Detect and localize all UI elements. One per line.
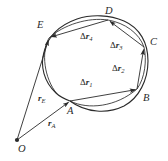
point-label-A: A xyxy=(67,106,73,117)
subscript-rA: A xyxy=(52,122,56,129)
figure-root: O A B C D E Δr1 Δr2 Δr3 Δr4 rE rA xyxy=(0,0,168,161)
subscript-rE: E xyxy=(42,97,46,104)
point-label-E: E xyxy=(37,20,43,31)
vector-dr1 xyxy=(70,90,136,101)
vector-label-dr3: Δr3 xyxy=(110,41,123,50)
point-label-D: D xyxy=(105,6,113,17)
chord-arcs xyxy=(45,19,146,106)
vector-label-dr1: Δr1 xyxy=(80,78,93,87)
origin-dot xyxy=(15,138,19,142)
point-label-C: C xyxy=(150,37,157,48)
point-label-B: B xyxy=(143,93,149,104)
vector-rA xyxy=(17,102,69,140)
point-label-O: O xyxy=(18,144,26,155)
subscript-dr4: 4 xyxy=(89,35,92,42)
vector-rE xyxy=(17,40,48,140)
vector-label-dr4: Δr4 xyxy=(80,32,93,41)
base-glyph-rA: r xyxy=(48,118,52,128)
vector-label-rE: rE xyxy=(38,94,46,103)
base-glyph-rE: r xyxy=(38,93,42,103)
vector-label-rA: rA xyxy=(48,119,56,128)
vector-label-dr2: Δr2 xyxy=(112,64,125,73)
subscript-dr2: 2 xyxy=(121,67,124,74)
subscript-dr1: 1 xyxy=(89,81,92,88)
subscript-dr3: 3 xyxy=(119,44,122,51)
displacement-vectors xyxy=(51,20,144,101)
